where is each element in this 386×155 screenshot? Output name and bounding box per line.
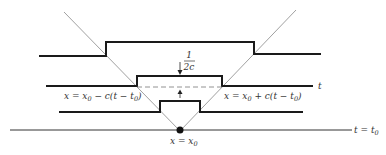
time-t-label: t <box>318 81 322 91</box>
down-arrow-icon <box>178 70 183 75</box>
pulse-middle <box>46 76 313 86</box>
right-characteristic-label: x = x0 + c(t − t0) <box>224 91 302 103</box>
apex-point <box>177 127 184 134</box>
wave-diagram: 1 2c x = x0 − c(t − t0) x = x0 + c(t − t… <box>0 0 386 155</box>
up-arrow-icon <box>178 90 183 95</box>
pulse-top <box>39 42 321 56</box>
apex-label: x = x0 <box>170 136 198 148</box>
pulse-lower <box>59 101 303 112</box>
left-characteristic-line <box>64 12 180 131</box>
time-t0-label: t = t0 <box>354 125 379 137</box>
fraction-numerator: 1 <box>186 50 192 60</box>
left-characteristic-label: x = x0 − c(t − t0) <box>64 91 142 103</box>
fraction-denominator: 2c <box>183 62 195 72</box>
